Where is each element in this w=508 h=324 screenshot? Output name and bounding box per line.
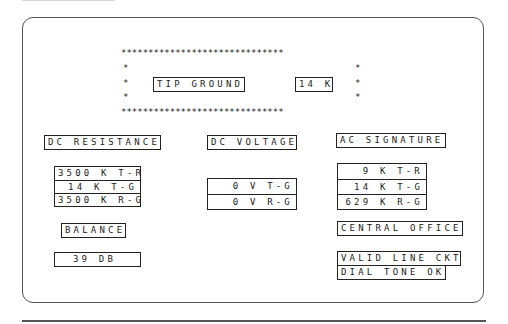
dc-resistance-table: 3500 K T-R 14 K T-G 3500 K R-G	[54, 166, 141, 207]
bottom-divider	[22, 320, 486, 322]
alert-star-right-2: *	[355, 79, 360, 88]
dial-tone-status: DIAL TONE OK	[337, 265, 446, 280]
alert-star-left-3: *	[123, 93, 128, 102]
dc-resistance-title: DC RESISTANCE	[44, 135, 161, 150]
ac-signature-table: 9 K T-R 14 K T-G 629 K R-G	[337, 163, 427, 210]
alert-star-right-3: *	[355, 93, 360, 102]
dc-resistance-row: 14 K T-G	[55, 180, 140, 193]
balance-value: 39 DB	[54, 252, 141, 267]
balance-title: BALANCE	[61, 223, 126, 238]
alert-stars-bottom: ******************************	[121, 108, 284, 117]
alert-label: TIP GROUND	[153, 77, 245, 92]
alert-star-left-1: *	[123, 64, 128, 73]
dc-voltage-row: 0 V R-G	[208, 194, 296, 209]
alert-value: 14 K	[295, 77, 333, 92]
central-office-status-line: VALID LINE CKT	[337, 251, 461, 266]
dc-resistance-row: 3500 K R-G	[55, 193, 140, 206]
dc-voltage-row: 0 V T-G	[208, 179, 296, 194]
dc-voltage-table: 0 V T-G 0 V R-G	[207, 178, 297, 210]
alert-star-right-1: *	[355, 64, 360, 73]
central-office-title: CENTRAL OFFICE	[337, 221, 463, 236]
top-divider	[22, 0, 115, 1]
alert-star-left-2: *	[123, 79, 128, 88]
ac-signature-title: AC SIGNATURE	[336, 133, 446, 148]
ac-signature-row: 14 K T-G	[338, 179, 426, 194]
dc-resistance-row: 3500 K T-R	[55, 167, 140, 180]
alert-stars-top: ******************************	[121, 49, 284, 58]
ac-signature-row: 9 K T-R	[338, 164, 426, 179]
ac-signature-row: 629 K R-G	[338, 194, 426, 209]
dc-voltage-title: DC VOLTAGE	[207, 135, 297, 150]
